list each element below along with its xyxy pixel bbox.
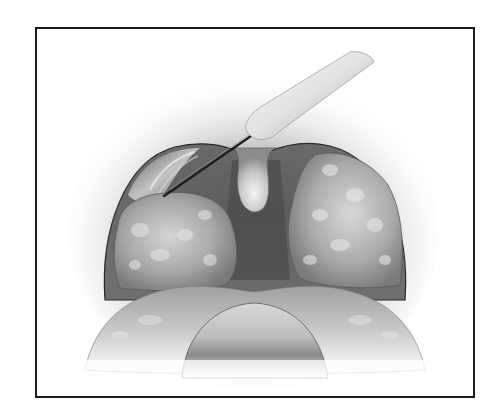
left-tonsil <box>114 192 237 290</box>
bottom-fade <box>60 360 450 390</box>
tonsillectomy-illustration <box>0 0 499 414</box>
